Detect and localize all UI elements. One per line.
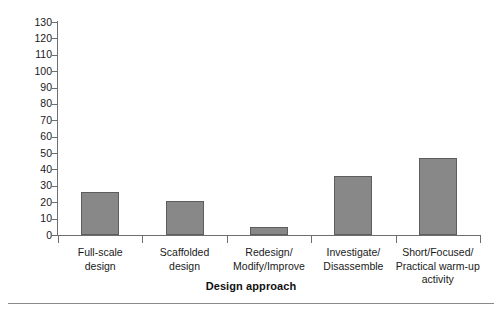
bar — [166, 201, 204, 235]
x-axis-label-line: Disassemble — [311, 260, 395, 274]
y-axis-tick-label: 70 — [8, 115, 52, 125]
x-axis-tick-mark — [480, 236, 481, 243]
x-axis-tick-mark — [227, 236, 228, 243]
bar — [81, 192, 119, 235]
x-axis-label-line: design — [142, 260, 226, 274]
y-axis-tick-label: 120 — [8, 33, 52, 43]
y-axis-tick-label: 60 — [8, 131, 52, 141]
bar — [334, 176, 372, 235]
y-axis-tick-label: 110 — [8, 49, 52, 59]
x-axis-label-line: Full-scale — [58, 246, 142, 260]
x-axis-label-line: Investigate/ — [311, 246, 395, 260]
y-axis-tick-label: 100 — [8, 66, 52, 76]
plot-area — [58, 22, 480, 235]
y-axis-tick-label: 50 — [8, 148, 52, 158]
x-axis-label-line: Scaffolded — [142, 246, 226, 260]
x-axis-category-label: Redesign/Modify/Improve — [227, 246, 311, 273]
x-axis-tick-mark — [311, 236, 312, 243]
x-axis-label-line: design — [58, 260, 142, 274]
x-axis-label-line: Modify/Improve — [227, 260, 311, 274]
x-axis-label-line: Practical warm-up — [396, 260, 480, 274]
bar — [250, 227, 288, 235]
x-axis-line — [57, 235, 481, 236]
y-axis-tick-label: 0 — [8, 230, 52, 240]
x-axis-tick-mark — [58, 236, 59, 243]
x-axis-tick-mark — [142, 236, 143, 243]
y-axis-tick-label: 40 — [8, 164, 52, 174]
y-axis-tick-label: 80 — [8, 98, 52, 108]
x-axis-category-label: Full-scaledesign — [58, 246, 142, 273]
bar-chart-figure: 0102030405060708090100110120130 Full-sca… — [0, 0, 502, 313]
y-axis-tick-label: 20 — [8, 197, 52, 207]
x-axis-category-label: Investigate/Disassemble — [311, 246, 395, 273]
x-axis-category-label: Scaffoldeddesign — [142, 246, 226, 273]
x-axis-title: Design approach — [0, 280, 502, 292]
y-axis-tick-label: 10 — [8, 213, 52, 223]
x-axis-label-line: Redesign/ — [227, 246, 311, 260]
x-axis-tick-mark — [396, 236, 397, 243]
y-axis-tick-label: 90 — [8, 82, 52, 92]
y-axis-tick-label: 130 — [8, 17, 52, 27]
x-axis-label-line: Short/Focused/ — [396, 246, 480, 260]
bar — [419, 158, 457, 235]
y-axis-tick-label: 30 — [8, 180, 52, 190]
figure-bottom-rule — [8, 303, 494, 304]
y-axis-ticks: 0102030405060708090100110120130 — [0, 0, 52, 313]
